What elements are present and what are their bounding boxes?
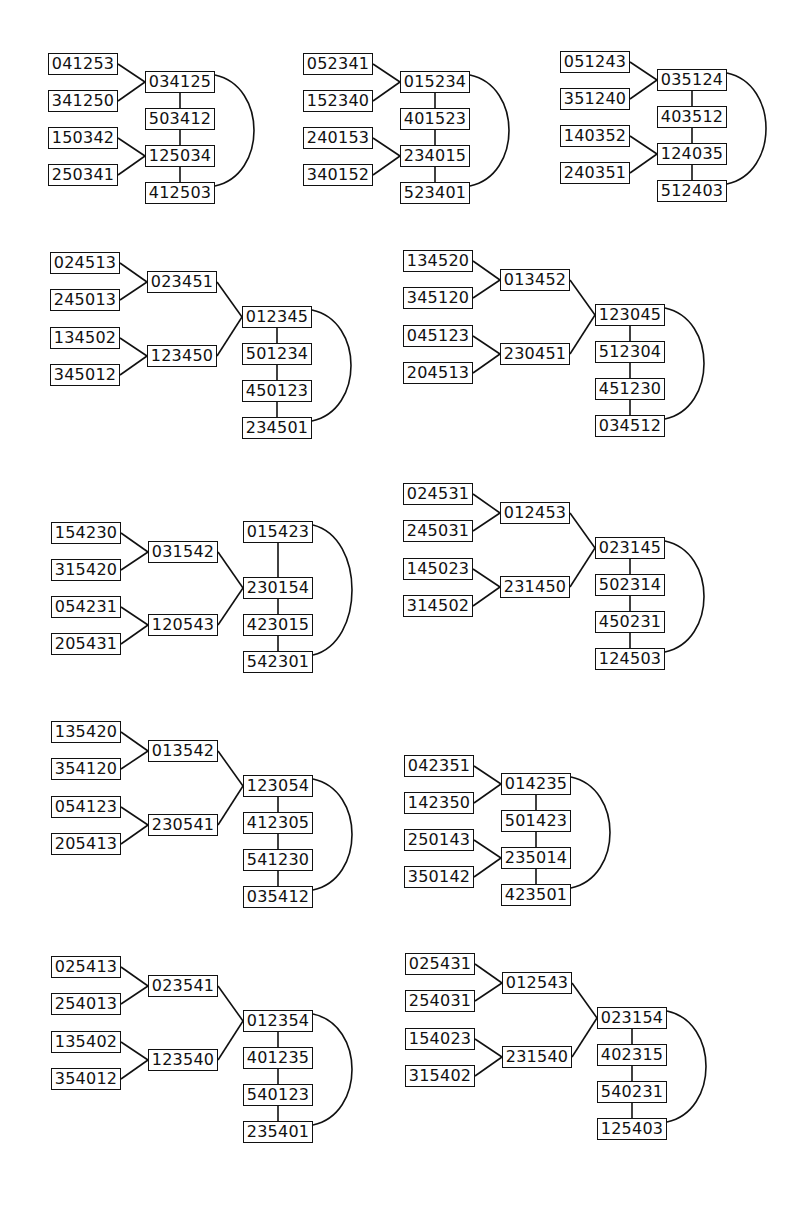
- chain-node: 035412: [243, 886, 313, 908]
- chain-node: 023154: [597, 1007, 667, 1029]
- chain-node: 234015: [400, 145, 470, 167]
- mid-node: 013542: [148, 740, 218, 762]
- leaf-node: 054123: [51, 796, 121, 818]
- leaf-node: 351240: [560, 88, 630, 110]
- chain-node: 402315: [597, 1044, 667, 1066]
- chain-node: 501234: [242, 343, 312, 365]
- leaf-node: 154023: [405, 1028, 475, 1050]
- chain-node: 235014: [501, 847, 571, 869]
- chain-node: 014235: [501, 773, 571, 795]
- leaf-node: 245031: [403, 520, 473, 542]
- leaf-node: 205413: [51, 833, 121, 855]
- mid-node: 231450: [500, 576, 570, 598]
- chain-node: 540123: [243, 1084, 313, 1106]
- chain-node: 230154: [243, 577, 313, 599]
- mid-node: 231540: [502, 1046, 572, 1068]
- chain-node: 451230: [595, 378, 665, 400]
- chain-node: 450123: [242, 380, 312, 402]
- chain-node: 034125: [145, 71, 215, 93]
- mid-node: 012543: [502, 972, 572, 994]
- chain-node: 125034: [145, 145, 215, 167]
- leaf-node: 045123: [403, 325, 473, 347]
- mid-node: 031542: [148, 541, 218, 563]
- chain-node: 450231: [595, 611, 665, 633]
- chain-node: 412305: [243, 812, 313, 834]
- leaf-node: 240351: [560, 162, 630, 184]
- leaf-node: 345012: [50, 364, 120, 386]
- leaf-node: 025413: [51, 956, 121, 978]
- chain-node: 503412: [145, 108, 215, 130]
- leaf-node: 250341: [48, 164, 118, 186]
- mid-node: 023541: [148, 975, 218, 997]
- chain-node: 401235: [243, 1047, 313, 1069]
- chain-node: 023145: [595, 537, 665, 559]
- leaf-node: 205431: [51, 633, 121, 655]
- chain-node: 123054: [243, 775, 313, 797]
- chain-node: 235401: [243, 1121, 313, 1143]
- leaf-node: 315402: [405, 1065, 475, 1087]
- leaf-node: 142350: [404, 792, 474, 814]
- mid-node: 123450: [147, 345, 217, 367]
- leaf-node: 154230: [51, 522, 121, 544]
- chain-node: 423015: [243, 614, 313, 636]
- leaf-node: 314502: [403, 595, 473, 617]
- chain-node: 542301: [243, 651, 313, 673]
- chain-node: 401523: [400, 108, 470, 130]
- chain-node: 123045: [595, 304, 665, 326]
- chain-node: 034512: [595, 415, 665, 437]
- leaf-node: 054231: [51, 596, 121, 618]
- leaf-node: 135402: [51, 1031, 121, 1053]
- chain-node: 015234: [400, 71, 470, 93]
- chain-node: 124035: [657, 143, 727, 165]
- chain-node: 234501: [242, 417, 312, 439]
- leaf-node: 135420: [51, 721, 121, 743]
- leaf-node: 140352: [560, 125, 630, 147]
- mid-node: 230451: [500, 343, 570, 365]
- chain-node: 512403: [657, 180, 727, 202]
- leaf-node: 354012: [51, 1068, 121, 1090]
- chain-node: 540231: [597, 1081, 667, 1103]
- leaf-node: 025431: [405, 953, 475, 975]
- leaf-node: 052341: [303, 53, 373, 75]
- leaf-node: 254013: [51, 993, 121, 1015]
- leaf-node: 315420: [51, 559, 121, 581]
- mid-node: 023451: [147, 271, 217, 293]
- leaf-node: 245013: [50, 289, 120, 311]
- leaf-node: 042351: [404, 755, 474, 777]
- leaf-node: 250143: [404, 829, 474, 851]
- leaf-node: 051243: [560, 51, 630, 73]
- mid-node: 120543: [148, 614, 218, 636]
- leaf-node: 024531: [403, 483, 473, 505]
- chain-node: 412503: [145, 182, 215, 204]
- leaf-node: 340152: [303, 164, 373, 186]
- leaf-node: 254031: [405, 990, 475, 1012]
- leaf-node: 350142: [404, 866, 474, 888]
- chain-node: 012354: [243, 1010, 313, 1032]
- chain-node: 501423: [501, 810, 571, 832]
- leaf-node: 345120: [403, 287, 473, 309]
- leaf-node: 134502: [50, 327, 120, 349]
- leaf-node: 145023: [403, 558, 473, 580]
- chain-node: 403512: [657, 106, 727, 128]
- chain-node: 512304: [595, 341, 665, 363]
- leaf-node: 041253: [48, 53, 118, 75]
- chain-node: 541230: [243, 849, 313, 871]
- chain-node: 502314: [595, 574, 665, 596]
- chain-node: 125403: [597, 1118, 667, 1140]
- mid-node: 012453: [500, 502, 570, 524]
- mid-node: 230541: [148, 814, 218, 836]
- leaf-node: 341250: [48, 90, 118, 112]
- chain-node: 523401: [400, 182, 470, 204]
- chain-node: 015423: [243, 521, 313, 543]
- leaf-node: 152340: [303, 90, 373, 112]
- mid-node: 013452: [500, 269, 570, 291]
- chain-node: 012345: [242, 306, 312, 328]
- leaf-node: 024513: [50, 252, 120, 274]
- leaf-node: 240153: [303, 127, 373, 149]
- chain-node: 035124: [657, 69, 727, 91]
- leaf-node: 150342: [48, 127, 118, 149]
- leaf-node: 204513: [403, 362, 473, 384]
- mid-node: 123540: [148, 1049, 218, 1071]
- chain-node: 423501: [501, 884, 571, 906]
- chain-node: 124503: [595, 648, 665, 670]
